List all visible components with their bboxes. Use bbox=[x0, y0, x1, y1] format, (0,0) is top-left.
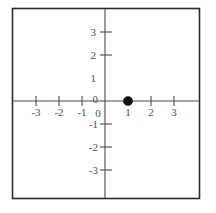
x-axis-label-neg1: -1 bbox=[77, 107, 86, 118]
y-axis-label-neg3: -3 bbox=[89, 165, 98, 176]
y-axis-label-origin: 0 bbox=[93, 94, 99, 105]
y-axis-label-neg2: -2 bbox=[89, 142, 98, 153]
x-axis-label-2: 2 bbox=[148, 107, 154, 118]
y-axis-label-neg1: -1 bbox=[89, 119, 98, 130]
x-axis-label-3: 3 bbox=[171, 107, 177, 118]
y-axis-label-3: 3 bbox=[91, 27, 97, 38]
x-axis-label-neg3: -3 bbox=[31, 107, 40, 118]
x-axis-label-1: 1 bbox=[125, 107, 131, 118]
coordinate-plane-figure: -3 -2 -1 0 1 2 3 3 2 1 0 -1 -2 -3 bbox=[0, 0, 216, 213]
data-point-marker bbox=[123, 96, 132, 105]
y-axis-label-2: 2 bbox=[91, 50, 97, 61]
y-axis-label-1: 1 bbox=[91, 73, 97, 84]
x-axis-label-neg2: -2 bbox=[54, 107, 63, 118]
